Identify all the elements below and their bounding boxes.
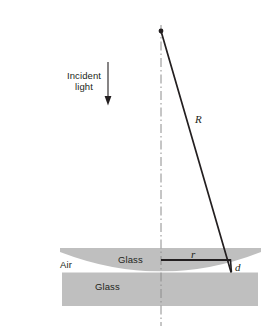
radius-R-line (161, 31, 231, 272)
gap-d-label: d (235, 262, 241, 273)
figure-canvas (0, 0, 276, 332)
newtons-rings-figure: Incident light Air Glass Glass R r d (0, 0, 276, 332)
plate-glass-label: Glass (95, 281, 120, 292)
center-of-curvature-point (159, 29, 164, 34)
glass-plate-body (62, 272, 258, 306)
radius-r-label: r (191, 249, 195, 260)
gap-d-line (230, 259, 231, 272)
arrowhead-down-icon (105, 96, 112, 106)
air-label: Air (60, 259, 72, 270)
lens-glass-label: Glass (118, 254, 143, 265)
air-wedge (62, 272, 258, 273)
incident-light-label: Incident light (62, 70, 106, 92)
radius-R-label: R (195, 114, 202, 125)
